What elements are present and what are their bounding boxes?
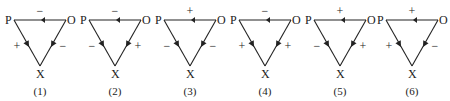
edge-p-o-sign: − <box>110 5 120 17</box>
vertex-p-label: P <box>230 14 237 26</box>
arrow-down-right-icon <box>173 40 181 48</box>
vertex-p-label: P <box>80 14 87 26</box>
arrow-down-left-icon <box>198 40 206 48</box>
triangle-panel-2: P O X − − + (2) <box>75 0 151 101</box>
panel-caption: (1) <box>25 86 55 97</box>
arrow-down-left-icon <box>123 40 131 48</box>
vertex-p-label: P <box>155 14 162 26</box>
edge-p-x-sign: − <box>87 40 97 52</box>
arrow-down-right-icon <box>395 40 403 48</box>
arrow-down-left-icon <box>348 40 356 48</box>
triangle-panel-3: P O X + − − (3) <box>150 0 226 101</box>
panel-caption: (6) <box>397 86 427 97</box>
triangle-panel-6: P O X + + − (6) <box>372 0 448 101</box>
vertex-x-label: X <box>111 68 120 80</box>
panel-caption: (2) <box>100 86 130 97</box>
vertex-p-label: P <box>305 14 312 26</box>
arrow-down-right-icon <box>98 40 106 48</box>
arrow-down-left-icon <box>273 40 281 48</box>
vertex-p-label: P <box>5 14 12 26</box>
triangle-panel-1: P O X − + − (1) <box>0 0 76 101</box>
edge-p-x-sign: − <box>162 40 172 52</box>
arrow-down-left-icon <box>420 40 428 48</box>
arrow-down-right-icon <box>23 40 31 48</box>
vertex-x-label: X <box>261 68 270 80</box>
vertex-x-label: X <box>408 68 417 80</box>
arrow-down-left-icon <box>48 40 56 48</box>
edge-o-x-sign: − <box>430 40 440 52</box>
arrow-down-right-icon <box>323 40 331 48</box>
edge-p-o-sign: + <box>407 5 417 17</box>
edge-p-x-sign: + <box>12 40 22 52</box>
triangle-panel-5: P O X + − + (5) <box>300 0 376 101</box>
panel-caption: (3) <box>175 86 205 97</box>
edge-o-x-sign: − <box>208 40 218 52</box>
edge-p-o-sign: + <box>185 5 195 17</box>
vertex-p-label: P <box>377 14 384 26</box>
panel-caption: (4) <box>250 86 280 97</box>
edge-p-x-sign: + <box>237 40 247 52</box>
edge-p-o-sign: − <box>260 5 270 17</box>
edge-o-x-sign: − <box>58 40 68 52</box>
vertex-x-label: X <box>336 68 345 80</box>
edge-o-x-sign: + <box>283 40 293 52</box>
edge-o-x-sign: + <box>358 40 368 52</box>
vertex-o-label: O <box>439 14 448 26</box>
panel-caption: (5) <box>325 86 355 97</box>
triangle-panel-4: P O X − + + (4) <box>225 0 301 101</box>
edge-p-x-sign: − <box>312 40 322 52</box>
vertex-x-label: X <box>36 68 45 80</box>
edge-p-x-sign: + <box>384 40 394 52</box>
edge-o-x-sign: + <box>133 40 143 52</box>
arrow-down-right-icon <box>248 40 256 48</box>
vertex-x-label: X <box>186 68 195 80</box>
edge-p-o-sign: + <box>335 5 345 17</box>
edge-p-o-sign: − <box>35 5 45 17</box>
